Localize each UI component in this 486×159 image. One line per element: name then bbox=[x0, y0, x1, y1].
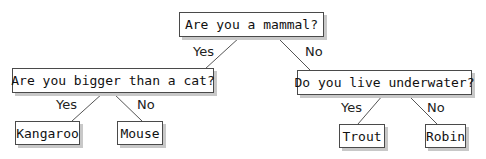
right-question-node: Do you live underwater? bbox=[297, 70, 472, 95]
edge-label-left-no: No bbox=[137, 97, 155, 112]
leaf-text: Robin bbox=[426, 129, 465, 144]
leaf-kangaroo: Kangaroo bbox=[15, 121, 80, 145]
leaf-text: Trout bbox=[342, 129, 381, 144]
leaf-text: Kangaroo bbox=[16, 126, 79, 141]
edge-label-root-no: No bbox=[305, 44, 323, 59]
left-question-node: Are you bigger than a cat? bbox=[12, 68, 214, 93]
root-question-text: Are you a mammal? bbox=[185, 17, 318, 32]
edge-label-left-yes: Yes bbox=[56, 97, 77, 112]
leaf-robin: Robin bbox=[425, 124, 466, 148]
leaf-trout: Trout bbox=[339, 124, 385, 148]
leaf-text: Mouse bbox=[120, 126, 159, 141]
edge-label-right-yes: Yes bbox=[341, 100, 362, 115]
right-question-text: Do you live underwater? bbox=[295, 75, 475, 90]
root-question-node: Are you a mammal? bbox=[179, 12, 324, 37]
edge-label-right-no: No bbox=[427, 100, 445, 115]
left-question-text: Are you bigger than a cat? bbox=[11, 73, 215, 88]
leaf-mouse: Mouse bbox=[117, 121, 163, 145]
edge-label-root-yes: Yes bbox=[193, 44, 214, 59]
